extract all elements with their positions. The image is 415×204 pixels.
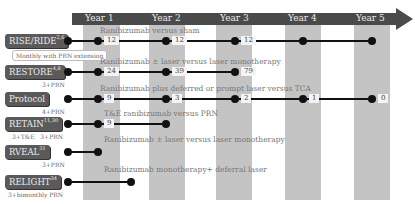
data-value: 12	[241, 36, 256, 45]
trial-ref: 11,30	[44, 117, 58, 123]
trial-name: RELIGHT	[9, 177, 50, 187]
end-dot	[94, 148, 102, 156]
data-value: 24	[104, 67, 119, 76]
trial-label-rise-ride: RISE/RIDE2,6	[5, 34, 68, 48]
trial-line	[68, 181, 131, 183]
year-2-label: Year 2	[152, 12, 181, 25]
dot	[94, 120, 102, 128]
data-value: 3	[172, 94, 182, 103]
year-1-label: Year 1	[85, 12, 114, 25]
trial-label-relight: RELIGHT34	[5, 175, 61, 189]
trial-description: Ranibizumab ± laser versus laser monothe…	[100, 57, 281, 66]
end-dot	[231, 68, 239, 76]
dot	[94, 95, 102, 103]
data-value: 79	[241, 67, 256, 76]
arrow-head-icon	[396, 8, 413, 30]
trial-name: Protocol	[9, 94, 45, 104]
dot	[299, 37, 307, 45]
trial-description: Ranibizumab ± laser versus laser monothe…	[104, 135, 285, 144]
trial-description: T&E ranibizumab versus PRN	[104, 109, 218, 118]
trial-label-retain: RETAIN11,30	[5, 117, 62, 131]
trial-label-protocol: Protocol	[5, 92, 49, 106]
dot	[231, 37, 239, 45]
trial-line	[68, 123, 166, 125]
trial-ref: 34	[50, 175, 56, 181]
trial-regimen: 3+bimonthly PRN	[8, 191, 63, 198]
trial-regimen: Monthly with PRN extension	[12, 50, 107, 61]
data-value: 12	[172, 36, 187, 45]
data-value: 1	[309, 94, 319, 103]
dot	[231, 95, 239, 103]
data-value: 12	[104, 36, 119, 45]
trial-ref: 31	[39, 145, 45, 151]
trial-regimen: 3+PRN	[42, 161, 65, 168]
year-3-label: Year 3	[220, 12, 249, 25]
trial-name: RISE/RIDE	[9, 36, 56, 46]
start-dot	[64, 68, 72, 76]
end-dot	[127, 178, 135, 186]
end-dot	[368, 95, 376, 103]
year-5-label: Year 5	[356, 12, 385, 25]
data-value: 2	[241, 94, 251, 103]
trial-ref: 4,8	[53, 65, 61, 71]
trial-regimen: 4+PRN	[42, 108, 65, 115]
trial-name: RESTORE	[9, 67, 53, 77]
start-dot	[64, 120, 72, 128]
dot	[162, 37, 170, 45]
trial-name: RVEAL	[9, 147, 39, 157]
end-dot	[162, 120, 170, 128]
dot	[94, 68, 102, 76]
data-value: 39	[172, 67, 187, 76]
dot	[162, 95, 170, 103]
trial-regimen: 3+PRN	[42, 81, 65, 88]
trial-regimen: 3+T&E 3+PRN	[12, 133, 63, 140]
data-value: 9	[104, 119, 114, 128]
data-value: 9	[104, 94, 114, 103]
trial-label-restore: RESTORE4,8	[5, 65, 65, 79]
dot	[299, 95, 307, 103]
data-value: 0	[378, 94, 388, 103]
start-dot	[64, 148, 72, 156]
trial-name: RETAIN	[9, 119, 44, 129]
end-dot	[368, 37, 376, 45]
dot	[94, 37, 102, 45]
trial-description: Ranibizumab monotherapy+ deferral laser	[104, 165, 267, 174]
trial-description: Ranibizumab plus deferred or prompt lase…	[100, 84, 311, 93]
start-dot	[64, 178, 72, 186]
start-dot	[64, 95, 72, 103]
trial-label-rveal: RVEAL31	[5, 145, 50, 159]
year-4-label: Year 4	[288, 12, 317, 25]
start-dot	[64, 37, 72, 45]
dot	[162, 68, 170, 76]
trial-description: Ranibizumab versus sham	[100, 26, 200, 35]
